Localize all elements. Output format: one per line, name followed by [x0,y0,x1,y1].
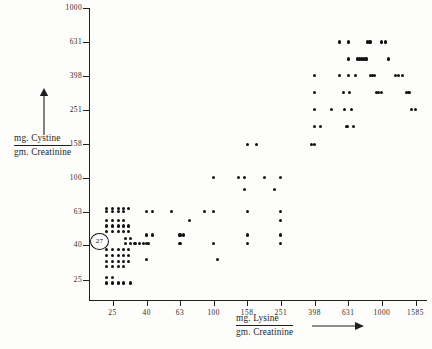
data-point [345,125,348,128]
data-point [111,248,114,251]
y-tick-label-631: 631 [44,38,82,46]
data-point [145,258,148,261]
data-point [170,210,173,213]
data-point [255,143,258,146]
x-tick-158 [247,300,248,306]
data-point [111,219,114,222]
data-point [117,248,120,251]
y-tick-label-1000: 1000 [44,4,82,12]
data-point [410,108,413,111]
data-point [117,219,120,222]
data-point [347,74,350,77]
data-point [212,210,215,213]
y-tick-251 [83,110,90,111]
data-point [122,224,125,227]
data-point [105,265,108,268]
data-point [133,242,136,245]
data-point [246,143,249,146]
data-point [246,242,249,245]
data-point [407,91,410,94]
data-point [117,224,120,227]
data-point [352,125,355,128]
data-point [105,224,108,227]
data-point [368,40,371,43]
x-axis-title: mg. Lysine gm. Creatinine [236,313,293,338]
data-point [127,260,130,263]
data-point [338,74,341,77]
data-point [397,74,400,77]
data-point [313,108,316,111]
y-tick-631 [83,42,90,43]
data-point [117,230,120,233]
data-point [354,74,357,77]
data-point [182,233,185,236]
data-point [243,188,246,191]
y-tick-label-text: 1000 [48,4,82,12]
x-tick-25 [113,300,114,306]
x-tick-63 [180,300,181,306]
data-point [105,260,108,263]
data-point [129,237,132,240]
data-point [263,176,266,179]
data-point [338,40,341,43]
data-point [129,281,132,284]
data-point [313,74,316,77]
data-point [145,210,148,213]
x-tick-631 [348,300,349,306]
data-point [347,57,350,60]
data-point [111,281,114,284]
y-tick-398 [83,76,90,77]
data-point [105,230,108,233]
x-axis-line [89,300,427,301]
data-point [111,276,114,279]
y-axis-title: mg. Cystine gm. Creatinine [14,133,71,158]
y-axis-title-denominator: gm. Creatinine [14,146,71,158]
data-point [273,188,276,191]
y-tick-label-text: 25 [48,276,82,284]
data-point [117,265,120,268]
x-tick-251 [281,300,282,306]
data-point [127,254,130,257]
data-point [145,233,148,236]
y-tick-label-100: 100 [44,174,82,182]
y-tick-158 [83,144,90,145]
y-axis-title-numerator: mg. Cystine [14,133,71,146]
circled-data-annotation: 27 [90,233,109,250]
data-point [105,281,108,284]
y-axis-line [89,8,90,301]
x-tick-label-1585: 1585 [396,308,432,317]
data-point [122,260,125,263]
y-tick-label-63: 63 [44,208,82,216]
data-point [105,219,108,222]
data-point [138,242,141,245]
data-point [216,258,219,261]
data-point [313,143,316,146]
data-point [151,210,154,213]
data-point [124,237,127,240]
data-point [279,176,282,179]
data-point [129,242,132,245]
y-tick-label-text: 631 [48,38,82,46]
data-point [342,91,345,94]
y-tick-label-398: 398 [44,72,82,80]
data-point [127,248,130,251]
y-tick-40 [83,245,90,246]
data-point [122,281,125,284]
y-tick-label-text: 100 [48,174,82,182]
data-point [330,108,333,111]
data-point [414,108,417,111]
data-point [313,125,316,128]
data-point [142,242,145,245]
data-point [105,210,108,213]
data-point [343,108,346,111]
y-tick-100 [83,178,90,179]
data-point [111,224,114,227]
data-point [246,233,249,236]
data-point [122,248,125,251]
data-point [111,210,114,213]
data-point [373,74,376,77]
data-point [105,254,108,257]
data-point [122,230,125,233]
scatter-plot-figure: 2540631001582513986311000 25406310015825… [0,0,432,349]
y-tick-63 [83,212,90,213]
